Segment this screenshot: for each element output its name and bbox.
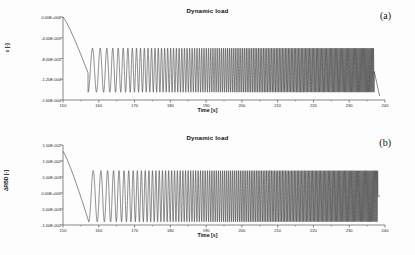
chart-title-b: Dynamic load — [0, 134, 415, 141]
y-axis-tick-labels-b: 1.50E-0021.00E-0025.00E-0030.00E+000-5.0… — [14, 145, 61, 225]
y-tick-label: -8.00E-005 — [41, 56, 61, 61]
y-tick-label: -5.00E-003 — [41, 207, 61, 212]
chart-panel-a: Dynamic load (a) 0.00E+000-4.00E-005-8.0… — [0, 0, 415, 128]
y-tick-label: 5.00E-003 — [43, 175, 61, 180]
y-tick-label: 0.00E+000 — [42, 15, 61, 20]
chart-panel-b: Dynamic load (b) 1.50E-0021.00E-0025.00E… — [0, 127, 415, 255]
x-axis-title-a: Time [s] — [0, 107, 415, 113]
x-axis-title-b: Time [s] — [0, 232, 415, 238]
y-tick-label: -1.00E-002 — [41, 223, 61, 228]
y-axis-title-b: ΔRBD [-] — [3, 170, 9, 191]
signal-trace — [63, 151, 380, 221]
chart-title-a: Dynamic load — [0, 7, 415, 14]
figure-container: Dynamic load (a) 0.00E+000-4.00E-005-8.0… — [0, 0, 415, 255]
plot-area-b — [63, 145, 385, 225]
y-axis-tick-labels-a: 0.00E+000-4.00E-005-8.00E-005-1.20E-004-… — [14, 17, 61, 100]
y-axis-title-a: ε [-] — [4, 43, 10, 52]
plot-svg-b — [63, 145, 385, 225]
y-tick-label: -1.60E-004 — [41, 98, 61, 103]
y-tick-label: 0.00E+000 — [42, 191, 61, 196]
y-tick-label: -4.00E-005 — [41, 35, 61, 40]
plot-svg-a — [63, 17, 385, 100]
y-tick-label: 1.50E-002 — [43, 143, 61, 148]
y-tick-label: 1.00E-002 — [43, 159, 61, 164]
signal-trace — [63, 17, 380, 96]
y-tick-label: -1.20E-004 — [41, 77, 61, 82]
plot-area-a — [63, 17, 385, 100]
